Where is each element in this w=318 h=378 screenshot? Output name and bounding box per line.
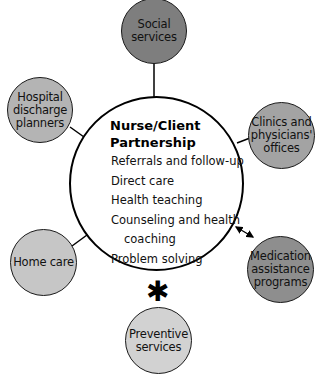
list-item: Counseling and health (111, 211, 244, 231)
list-item: Problem solving (111, 250, 244, 270)
node-label: Social services (131, 18, 177, 44)
list-item: Direct care (111, 172, 244, 192)
nurse-client-partnership-diagram: Nurse/Client Partnership Referrals and f… (0, 0, 318, 378)
list-item: Health teaching (111, 191, 244, 211)
node-label: Medication assistance programs (250, 250, 311, 289)
node-social-services: Social services (121, 0, 187, 64)
list-item: Referrals and follow-up (111, 152, 244, 172)
node-clinics-physicians-offices: Clinics and physicians' offices (248, 102, 315, 169)
asterisk-icon: ✱ (146, 278, 169, 306)
center-services-list: Referrals and follow-up Direct care Heal… (111, 152, 244, 269)
node-label: Clinics and physicians' offices (251, 116, 312, 155)
node-label: Hospital discharge planners (13, 91, 67, 130)
node-preventive-services: Preventive services (125, 307, 192, 374)
node-home-care: Home care (10, 229, 77, 296)
list-item: coaching (111, 230, 244, 250)
node-label: Preventive services (129, 328, 188, 354)
connector-home (72, 235, 87, 246)
node-hospital-discharge-planners: Hospital discharge planners (7, 77, 73, 143)
node-label: Home care (13, 256, 74, 269)
center-title: Nurse/Client Partnership (110, 117, 201, 151)
node-medication-assistance-programs: Medication assistance programs (247, 236, 314, 303)
